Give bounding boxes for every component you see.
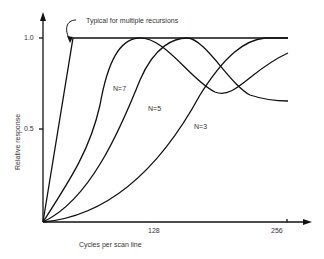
- curve-n7: [43, 38, 288, 222]
- response-chart: Typical for multiple recursions N=7 N=5 …: [0, 0, 324, 259]
- axes: [39, 18, 305, 222]
- curve-typical: [43, 38, 288, 222]
- label-n5: N=5: [148, 105, 161, 112]
- x-axis-label: Cycles per scan line: [79, 241, 142, 249]
- x-tick-128: 128: [148, 227, 160, 234]
- curves: [43, 38, 288, 222]
- label-n3: N=3: [194, 123, 207, 130]
- annotation-label: Typical for multiple recursions: [86, 17, 179, 25]
- y-axis-arrow-icon: [40, 12, 46, 21]
- y-tick-1: 1.0: [24, 34, 34, 41]
- curve-n3: [43, 38, 288, 222]
- x-tick-256: 256: [271, 227, 283, 234]
- y-axis-label: Relative response: [14, 114, 22, 170]
- x-axis-arrow-icon: [303, 219, 312, 225]
- curve-n5: [43, 38, 288, 222]
- y-tick-05: 0.5: [24, 125, 34, 132]
- label-n7: N=7: [113, 85, 126, 92]
